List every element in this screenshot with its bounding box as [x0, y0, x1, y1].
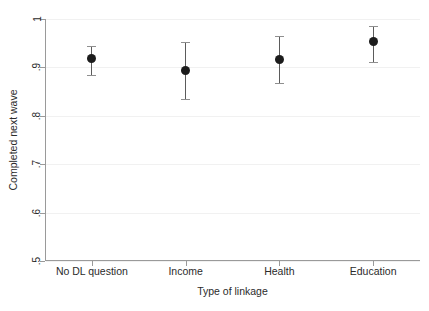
- error-bar-cap-lower: [87, 75, 96, 76]
- y-tick-label: .5: [32, 257, 42, 265]
- plot-area: .5.6.7.8.91 No DL questionIncomeHealthEd…: [45, 19, 420, 261]
- y-tick-label: .6: [32, 208, 42, 216]
- y-tick-label: .8: [32, 112, 42, 120]
- x-tick-label: No DL question: [56, 266, 128, 277]
- error-bar-cap-upper: [87, 46, 96, 47]
- x-axis-title-label: Type of linkage: [197, 285, 268, 297]
- gridline: [46, 213, 420, 214]
- x-tick-label: Education: [350, 266, 397, 277]
- gridline: [46, 67, 420, 68]
- error-bar-cap-upper: [181, 42, 190, 43]
- x-axis-title: Type of linkage: [45, 285, 420, 297]
- x-tick-label: Health: [264, 266, 294, 277]
- chart-figure: Completed next wave .5.6.7.8.91 No DL qu…: [0, 0, 429, 311]
- y-tick-label: .9: [32, 63, 42, 71]
- data-point-marker: [275, 55, 284, 64]
- y-axis-line: [45, 19, 46, 261]
- error-bar-cap-lower: [275, 83, 284, 84]
- y-axis-title: Completed next wave: [6, 19, 20, 261]
- error-bar-cap-lower: [369, 62, 378, 63]
- error-bar-cap-lower: [181, 99, 190, 100]
- x-tick-label: Income: [168, 266, 202, 277]
- gridline: [46, 116, 420, 117]
- gridline: [46, 164, 420, 165]
- error-bar-cap-upper: [275, 36, 284, 37]
- data-point-marker: [181, 66, 190, 75]
- gridline: [46, 19, 420, 20]
- gridline: [46, 261, 420, 262]
- y-tick-label: .7: [32, 160, 42, 168]
- data-point-marker: [87, 54, 96, 63]
- error-bar-cap-upper: [369, 26, 378, 27]
- data-point-marker: [369, 37, 378, 46]
- y-tick-label: 1: [33, 16, 43, 22]
- y-axis-title-label: Completed next wave: [7, 90, 19, 191]
